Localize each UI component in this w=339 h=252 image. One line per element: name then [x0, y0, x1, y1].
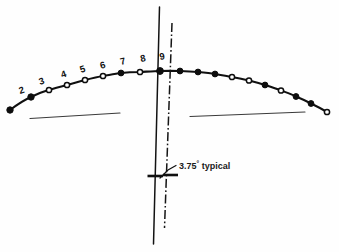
point-label-4: 4 — [59, 68, 68, 80]
array-point-marker — [229, 74, 234, 79]
array-point-marker — [262, 82, 268, 88]
array-point-marker — [157, 68, 164, 75]
array-point-marker — [278, 88, 283, 93]
array-point-marker — [195, 69, 201, 75]
array-point-marker — [212, 71, 218, 77]
array-point-marker — [324, 109, 329, 114]
point-label-3: 3 — [37, 75, 45, 87]
point-label-6: 6 — [99, 59, 107, 71]
angle-suffix: typical — [199, 161, 230, 171]
point-label-2: 2 — [17, 84, 25, 96]
point-label-8: 8 — [139, 52, 146, 64]
array-point-marker — [28, 94, 34, 100]
diagram-canvas: 2 3 4 5 6 7 8 9 3.75° typical — [0, 0, 339, 252]
angle-annotation: 3.75° typical — [179, 160, 230, 171]
angle-annotation-text: 3.75° typical — [179, 160, 230, 171]
array-point-marker — [308, 101, 314, 107]
array-point-marker — [82, 77, 87, 82]
array-point-marker — [7, 107, 13, 113]
array-point-marker — [177, 68, 183, 74]
point-label-9: 9 — [158, 50, 165, 62]
array-point-marker — [246, 78, 251, 83]
array-point-marker — [100, 73, 105, 78]
point-label-5: 5 — [78, 63, 87, 75]
array-point-marker — [46, 87, 51, 92]
technical-diagram: 2 3 4 5 6 7 8 9 3.75° typical — [0, 0, 339, 252]
array-point-marker — [137, 69, 142, 74]
array-point-marker — [118, 70, 124, 76]
reference-line-left — [30, 113, 120, 119]
angle-value: 3.75 — [179, 161, 197, 171]
reference-line-right — [190, 112, 305, 117]
point-label-7: 7 — [119, 55, 127, 67]
array-point-marker — [293, 94, 299, 100]
vertical-solid-axis — [154, 7, 160, 244]
point-label-group: 2 3 4 5 6 7 8 9 — [17, 50, 165, 96]
vertical-dashdot-axis — [165, 23, 173, 228]
array-point-marker — [64, 82, 69, 87]
